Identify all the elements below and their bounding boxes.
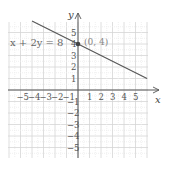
y-tick-label: −2: [67, 108, 80, 118]
y-tick-label: −5: [67, 143, 80, 153]
y-tick-label: 2: [71, 62, 76, 72]
y-tick-label: −3: [67, 120, 80, 130]
y-tick-label: 5: [71, 28, 76, 38]
equation-label: x + 2y = 8: [10, 37, 64, 48]
point-label: (0, 4): [84, 37, 108, 47]
y-tick-label: −4: [67, 131, 80, 141]
x-axis-label: x: [155, 94, 161, 105]
x-tick-label: 1: [87, 92, 92, 102]
x-tick-label: 5: [133, 92, 138, 102]
x-tick-label: 3: [110, 92, 115, 102]
y-tick-label: 3: [71, 51, 76, 61]
y-tick-label: 1: [71, 74, 76, 84]
y-axis-label: y: [67, 9, 74, 20]
y-tick-label: −1: [67, 97, 80, 107]
intercept-point: [76, 42, 81, 47]
coordinate-graph: x y −5−4−3−2−11234554321−1−2−3−4−5 x + 2…: [0, 0, 170, 171]
x-tick-label: 2: [99, 92, 104, 102]
x-tick-label: 4: [122, 92, 127, 102]
